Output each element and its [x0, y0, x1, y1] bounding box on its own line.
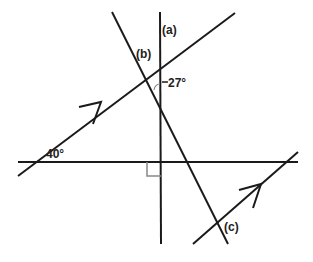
label-b: (b) — [136, 47, 151, 61]
vertical-line — [160, 12, 161, 244]
label-c: (c) — [224, 220, 239, 234]
geometry-diagram: (a) (b) (c) 27° 40° — [0, 0, 313, 262]
label-angle-27: 27° — [168, 76, 186, 90]
label-a: (a) — [162, 23, 177, 37]
lower-parallel-line — [193, 152, 298, 244]
transversal-line — [112, 12, 228, 244]
angle-arc-27 — [154, 84, 160, 90]
right-angle-marker — [147, 162, 161, 176]
label-angle-40: 40° — [46, 147, 64, 161]
